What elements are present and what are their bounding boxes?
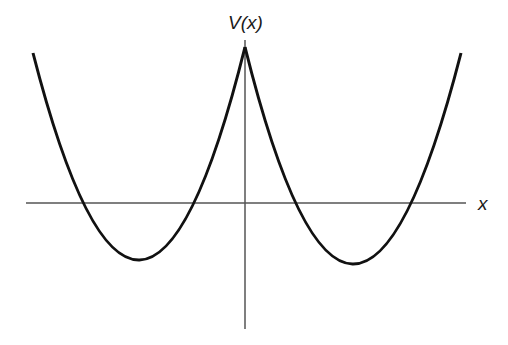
x-axis-label: x bbox=[478, 193, 488, 215]
potential-diagram bbox=[0, 0, 508, 345]
y-axis-label: V(x) bbox=[228, 12, 263, 34]
left-well-curve bbox=[33, 47, 245, 260]
right-well-curve bbox=[245, 47, 461, 264]
